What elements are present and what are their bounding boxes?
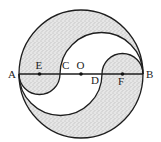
geometry-diagram: A E C O D F B xyxy=(0,0,161,142)
label-A: A xyxy=(8,68,16,80)
label-F: F xyxy=(118,75,124,87)
label-O: O xyxy=(77,59,85,71)
label-C: C xyxy=(62,59,69,71)
label-B: B xyxy=(146,68,153,80)
label-D: D xyxy=(91,74,99,86)
diagram-canvas: A E C O D F B xyxy=(0,0,161,142)
shaded-region-semicircle-E xyxy=(19,74,60,94)
label-E: E xyxy=(36,59,43,71)
shaded-region-semicircle-F xyxy=(102,54,143,74)
point-O-marker xyxy=(79,72,83,76)
point-E-marker xyxy=(38,72,42,76)
